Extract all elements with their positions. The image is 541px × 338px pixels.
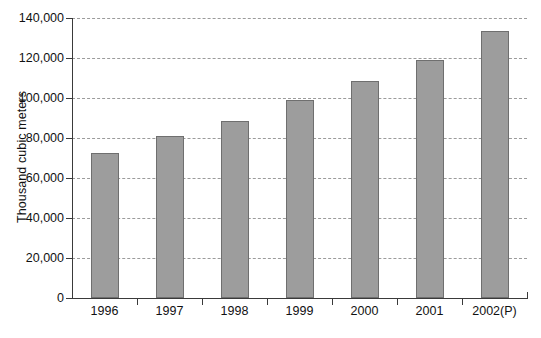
y-axis-tick-mark [66, 138, 73, 139]
y-axis-tick-label: 60,000 [2, 171, 64, 185]
y-axis-tick-mark [66, 218, 73, 219]
bar [416, 60, 444, 298]
y-axis-tick-labels: 020,00040,00060,00080,000100,000120,0001… [0, 0, 64, 338]
y-axis-line [72, 18, 73, 299]
bar [221, 121, 249, 299]
y-axis-tick-mark [66, 258, 73, 259]
bar [91, 153, 119, 298]
bar [481, 31, 509, 298]
y-axis-tick-mark [66, 58, 73, 59]
bar [156, 136, 184, 298]
y-axis-tick-label: 40,000 [2, 211, 64, 225]
y-axis-tick-label: 100,000 [2, 91, 64, 105]
plot-area [72, 18, 527, 298]
y-axis-tick-label: 120,000 [2, 51, 64, 65]
y-axis-tick-label: 0 [2, 291, 64, 305]
bar [351, 81, 379, 298]
x-axis-tick-label: 2002(P) [450, 304, 540, 318]
gridline [72, 98, 527, 99]
y-axis-tick-mark [66, 178, 73, 179]
y-axis-tick-label: 20,000 [2, 251, 64, 265]
gridline [72, 58, 527, 59]
bar [286, 100, 314, 298]
x-axis-right-cap [527, 292, 528, 299]
x-axis-line [72, 298, 528, 299]
y-axis-tick-mark [66, 18, 73, 19]
bar-chart: Thousand cubic meters 020,00040,00060,00… [0, 0, 541, 338]
gridline [72, 18, 527, 19]
y-axis-tick-label: 140,000 [2, 11, 64, 25]
caption-sliver [70, 330, 470, 338]
y-axis-tick-mark [66, 298, 73, 299]
y-axis-tick-mark [66, 98, 73, 99]
y-axis-tick-label: 80,000 [2, 131, 64, 145]
